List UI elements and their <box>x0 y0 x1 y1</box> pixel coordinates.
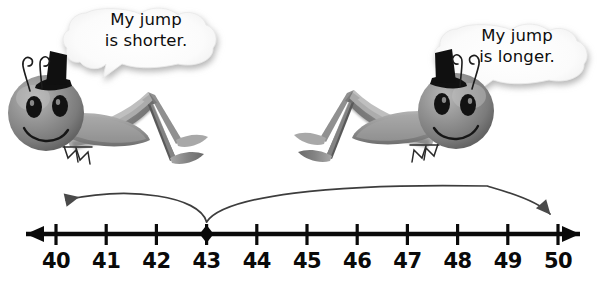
jump-arcs <box>66 186 550 222</box>
artwork-layer <box>0 0 605 289</box>
long-jump-arc <box>207 186 550 222</box>
number-line <box>26 224 580 245</box>
left-grasshopper-eye-left <box>26 96 42 118</box>
right-grasshopper-eye-left <box>460 94 476 116</box>
number-line-marker <box>200 225 214 243</box>
number-line-right-arrowhead <box>562 226 580 242</box>
right-grasshopper-eye-right <box>434 93 450 115</box>
left-grasshopper-eye-right <box>52 95 68 117</box>
worksheet-scene: My jump is shorter. My jump is longer. 4… <box>0 0 605 289</box>
speech-bubble-left <box>63 8 216 78</box>
short-jump-arc <box>66 194 207 222</box>
number-line-left-arrowhead <box>26 226 44 242</box>
